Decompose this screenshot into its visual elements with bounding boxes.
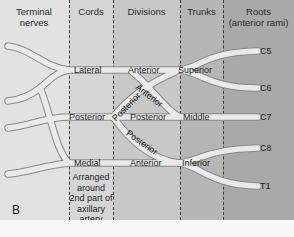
root-t1: T1 (260, 181, 271, 191)
root-c5: C5 (260, 46, 272, 56)
figure-footer (0, 220, 294, 237)
cords-note-line: axillary (64, 204, 118, 215)
trunk-middle: Middle (183, 112, 210, 122)
division-middle-posterior: Posterior (130, 112, 166, 122)
brachial-plexus-diagram: Terminal nerves Cords Divisions Trunks R… (0, 0, 294, 237)
division-inferior-anterior: Anterior (130, 158, 162, 168)
root-c8: C8 (260, 143, 272, 153)
trunk-superior: Superior (178, 65, 212, 75)
cords-note-line: around (64, 183, 118, 194)
trunk-inferior: Inferior (182, 158, 210, 168)
cord-lateral: Lateral (74, 65, 102, 75)
panel-letter: B (12, 203, 20, 217)
cords-note: Arranged around 2nd part of axillary art… (64, 172, 118, 225)
division-superior-anterior: Anterior (128, 65, 160, 75)
diagram-panel: Terminal nerves Cords Divisions Trunks R… (0, 0, 294, 220)
cords-note-line: Arranged (64, 172, 118, 183)
nerve-paths (0, 0, 294, 220)
cord-posterior: Posterior (69, 112, 105, 122)
cord-medial: Medial (74, 158, 101, 168)
cords-note-line: 2nd part of (64, 193, 118, 204)
root-c6: C6 (260, 83, 272, 93)
root-c7: C7 (260, 112, 272, 122)
